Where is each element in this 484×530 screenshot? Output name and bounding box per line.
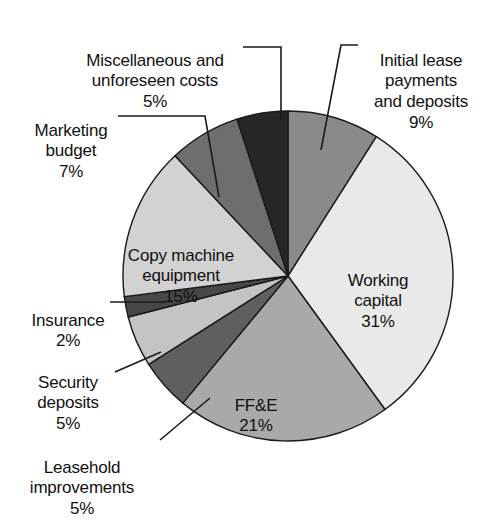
slice-label-miscellaneous-name: Miscellaneous and unforeseen costs bbox=[86, 51, 223, 91]
slice-label-copy-machine-name: Copy machine equipment bbox=[128, 246, 234, 286]
slice-label-security-deposits-name: Security deposits bbox=[37, 373, 99, 413]
slice-label-ffe-value: 21% bbox=[239, 416, 272, 435]
slice-label-insurance-value: 2% bbox=[6, 331, 130, 352]
slice-label-copy-machine-value: 15% bbox=[164, 287, 197, 306]
slice-label-initial-lease: Initial lease payments and deposits 9% bbox=[362, 30, 480, 154]
pie-chart: Miscellaneous and unforeseen costs 5% In… bbox=[0, 0, 484, 530]
slice-label-working-capital-value: 31% bbox=[361, 312, 394, 331]
slice-label-insurance-name: Insurance bbox=[32, 311, 105, 330]
slice-label-initial-lease-value: 9% bbox=[362, 113, 480, 134]
slice-label-leasehold-improvements: Leasehold improvements 5% bbox=[0, 437, 164, 530]
slice-label-security-deposits-value: 5% bbox=[6, 414, 130, 435]
slice-label-working-capital: Working capital 31% bbox=[326, 250, 430, 333]
slice-label-marketing-budget: Marketing budget 7% bbox=[12, 100, 130, 204]
slice-label-copy-machine: Copy machine equipment 15% bbox=[118, 225, 244, 308]
slice-label-marketing-budget-name: Marketing budget bbox=[35, 121, 108, 161]
slice-label-working-capital-name: Working capital bbox=[348, 271, 409, 311]
slice-label-initial-lease-name: Initial lease payments and deposits bbox=[374, 51, 468, 111]
slice-label-leasehold-improvements-value: 5% bbox=[0, 499, 164, 520]
slice-label-ffe-name: FF&E bbox=[235, 396, 278, 415]
slice-label-leasehold-improvements-name: Leasehold improvements bbox=[30, 458, 134, 498]
slice-label-ffe: FF&E 21% bbox=[208, 375, 304, 437]
slice-label-marketing-budget-value: 7% bbox=[12, 162, 130, 183]
